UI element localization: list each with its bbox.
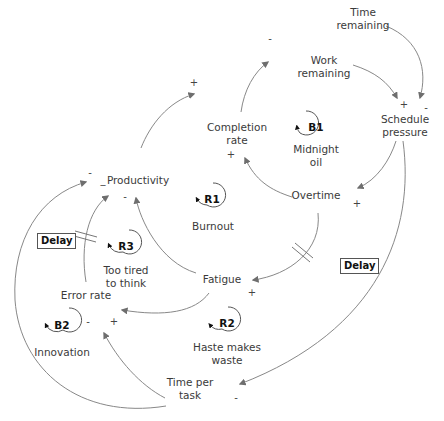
link-time-per-task-to-error-rate xyxy=(104,333,165,398)
sign-work-to-schedule: + xyxy=(400,99,408,110)
causal-loop-diagram: Time remaining Work remaining Schedule p… xyxy=(0,0,444,421)
node-fatigue: Fatigue xyxy=(203,273,241,286)
node-productivity: Productivity xyxy=(107,174,169,187)
sign-schedule-to-time-per-task: - xyxy=(234,392,238,403)
loop-r2-id: R2 xyxy=(219,317,234,329)
link-time-remaining-to-schedule-pressure xyxy=(386,26,423,98)
link-fatigue-to-error-rate xyxy=(122,293,209,313)
sign-time-per-task-to-productivity: - xyxy=(88,167,92,178)
sign-error-to-productivity: _ xyxy=(101,174,106,185)
link-work-remaining-to-schedule-pressure xyxy=(353,65,397,98)
sign-overtime-to-fatigue: + xyxy=(248,287,256,298)
node-schedule-pressure: Schedule pressure xyxy=(381,113,429,139)
loop-r3-id: R3 xyxy=(118,240,133,252)
loop-b1-id: B1 xyxy=(308,121,323,133)
delay-mark-overtime-fatigue-2 xyxy=(292,247,310,262)
sign-productivity-to-completion: + xyxy=(190,77,198,88)
loop-b2-name: Innovation xyxy=(34,346,90,359)
link-fatigue-to-productivity xyxy=(136,198,196,273)
loop-r1-name: Burnout xyxy=(192,220,234,233)
node-completion-rate: Completion rate xyxy=(207,121,267,147)
sign-time-to-schedule: - xyxy=(424,102,428,113)
sign-fatigue-to-error: + xyxy=(110,316,118,327)
loop-r2-name: Haste makes waste xyxy=(193,341,261,367)
node-error-rate: Error rate xyxy=(61,289,111,302)
link-overtime-to-fatigue xyxy=(253,213,318,280)
node-overtime: Overtime xyxy=(292,189,341,202)
link-overtime-to-completion-rate xyxy=(245,158,292,197)
node-time-per-task: Time per task xyxy=(167,376,213,402)
loop-b1-name: Midnight oil xyxy=(293,143,339,169)
link-schedule-pressure-to-time-per-task xyxy=(240,141,405,384)
sign-schedule-to-overtime: + xyxy=(353,198,361,209)
node-work-remaining: Work remaining xyxy=(297,54,350,80)
link-productivity-to-completion-rate xyxy=(141,94,194,148)
sign-overtime-to-completion: + xyxy=(227,149,235,160)
link-schedule-pressure-to-overtime xyxy=(358,141,396,188)
delay-box-error-productivity: Delay xyxy=(37,233,76,249)
node-time-remaining: Time remaining xyxy=(336,6,389,32)
loop-r3-name: Too tired to think xyxy=(103,264,148,290)
sign-time-per-task-to-error: - xyxy=(86,316,90,327)
sign-fatigue-to-productivity: - xyxy=(123,191,127,202)
delay-box-overtime-fatigue: Delay xyxy=(340,258,379,274)
link-completion-rate-to-work-remaining xyxy=(241,62,268,112)
loop-r1-id: R1 xyxy=(204,193,219,205)
loop-b2-id: B2 xyxy=(54,319,69,331)
sign-completion-to-work: - xyxy=(268,33,272,44)
